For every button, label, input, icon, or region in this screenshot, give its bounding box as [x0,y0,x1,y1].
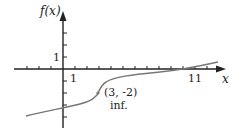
x-axis-label: x [222,73,229,85]
inflection-point-marker [96,91,99,94]
y-axis-label: f(x) [40,5,61,17]
inflection-note: inf. [110,100,128,111]
function-graph [0,0,242,132]
x-tick-label-1: 1 [70,73,77,84]
inflection-point-label: (3, -2) [104,87,137,98]
y-tick-label-1: 1 [53,52,60,63]
x-tick-label-11: 11 [188,73,202,84]
